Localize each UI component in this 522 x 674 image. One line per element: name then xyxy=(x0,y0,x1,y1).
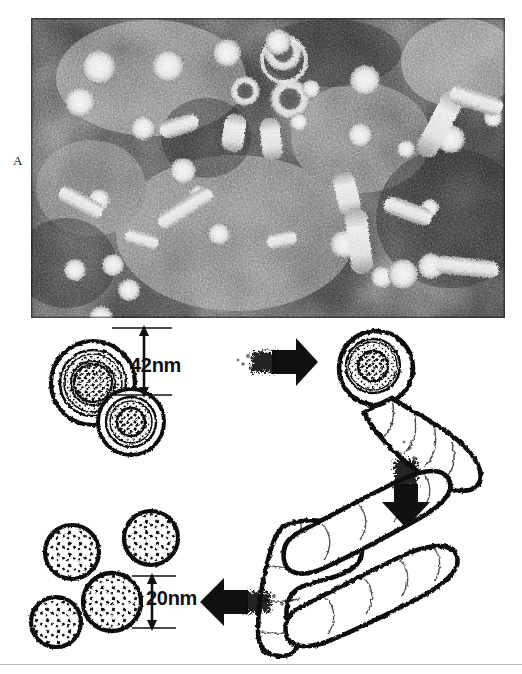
arrow-right xyxy=(237,338,318,386)
small-spherical-particle xyxy=(31,597,81,647)
electron-micrograph-panel xyxy=(31,18,505,318)
measurement-label-20nm: 20nm xyxy=(146,588,197,608)
small-spherical-particle xyxy=(45,525,99,579)
micrograph-image xyxy=(31,18,505,318)
small-spherical-particle xyxy=(124,511,178,565)
measurement-label-42nm: 42nm xyxy=(130,355,181,375)
schematic-drawing xyxy=(0,320,522,665)
footer-divider xyxy=(0,664,522,665)
schematic-diagram-panel xyxy=(0,320,522,665)
dane-particle xyxy=(98,389,164,455)
small-spherical-particle xyxy=(83,573,141,631)
panel-label-a: A xyxy=(13,154,22,167)
figure-root: A xyxy=(0,0,522,674)
